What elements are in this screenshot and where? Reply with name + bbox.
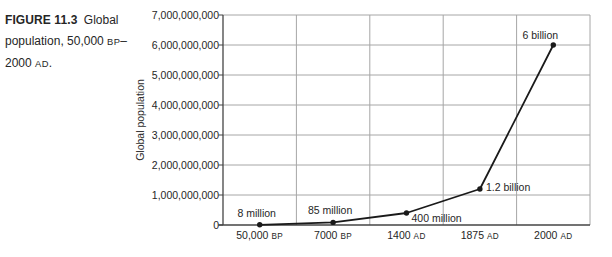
x-tick-era: AD <box>487 232 499 241</box>
y-tick-label: 7,000,000,000 <box>87 9 219 21</box>
x-tick-label: 1875AD <box>461 229 500 243</box>
data-point-marker <box>330 220 335 225</box>
x-tick-label: 50,000BP <box>236 229 283 243</box>
y-tick-label: 2,000,000,000 <box>87 159 219 171</box>
figure-11-3-page: FIGURE 11.3 Globalpopulation, 50,000 BP–… <box>0 0 612 257</box>
x-tick-year: 7000 <box>314 229 337 241</box>
data-point-label: 6 billion <box>522 29 558 41</box>
data-point-label: 8 million <box>237 207 276 219</box>
data-point-marker <box>404 210 409 215</box>
x-tick-era: BP <box>340 232 352 241</box>
data-point-marker <box>551 42 556 47</box>
y-tick-label: 1,000,000,000 <box>87 189 219 201</box>
data-point-label: 1.2 billion <box>486 181 530 193</box>
x-tick-year: 2000 <box>534 229 557 241</box>
x-tick-year: 1875 <box>461 229 484 241</box>
x-tick-era: BP <box>271 232 283 241</box>
data-point-marker <box>257 222 262 227</box>
x-tick-label: 7000BP <box>314 229 352 243</box>
x-tick-year: 1400 <box>387 229 410 241</box>
data-point-label: 400 million <box>412 212 462 224</box>
y-tick-label: 0 <box>87 219 219 231</box>
x-tick-label: 2000AD <box>534 229 573 243</box>
x-tick-era: AD <box>560 232 572 241</box>
data-point-label: 85 million <box>308 204 352 216</box>
x-tick-era: AD <box>414 232 426 241</box>
y-tick-label: 3,000,000,000 <box>87 129 219 141</box>
x-tick-label: 1400AD <box>387 229 426 243</box>
x-tick-year: 50,000 <box>236 229 268 241</box>
data-point-marker <box>477 186 482 191</box>
y-tick-label: 6,000,000,000 <box>87 39 219 51</box>
y-tick-label: 5,000,000,000 <box>87 69 219 81</box>
y-tick-label: 4,000,000,000 <box>87 99 219 111</box>
